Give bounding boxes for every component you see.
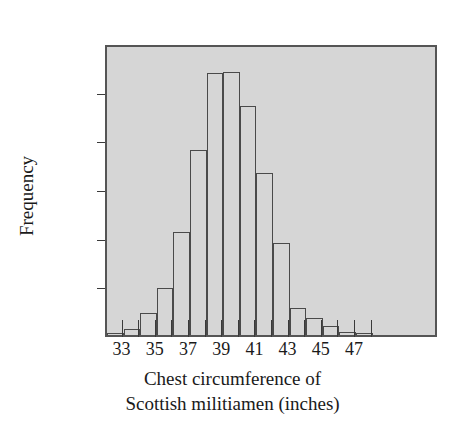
x-axis-tick <box>354 320 355 337</box>
x-axis-tick <box>321 320 322 337</box>
x-axis-tick <box>238 320 239 337</box>
x-axis-tick <box>271 320 272 337</box>
x-axis-title: Chest circumference of Scottish militiam… <box>0 366 465 416</box>
x-axis-tick <box>288 320 289 337</box>
x-axis-tick <box>155 320 156 337</box>
x-axis-tick <box>337 320 338 337</box>
x-axis-title-line-1: Chest circumference of <box>0 366 465 391</box>
x-axis-tick <box>138 320 139 337</box>
x-axis-tick <box>188 320 189 337</box>
histogram-figure: Frequency 1,2001,0008006004002000 333537… <box>0 0 465 436</box>
x-axis-tick <box>221 320 222 337</box>
x-axis-tick <box>171 320 172 337</box>
x-axis-tick <box>371 320 372 337</box>
x-axis-tick <box>205 320 206 337</box>
x-axis-tick <box>122 320 123 337</box>
x-axis-tick-label: 47 <box>334 339 374 359</box>
x-axis-title-line-2: Scottish militiamen (inches) <box>0 391 465 416</box>
x-axis-tick <box>254 320 255 337</box>
x-axis-tick <box>304 320 305 337</box>
